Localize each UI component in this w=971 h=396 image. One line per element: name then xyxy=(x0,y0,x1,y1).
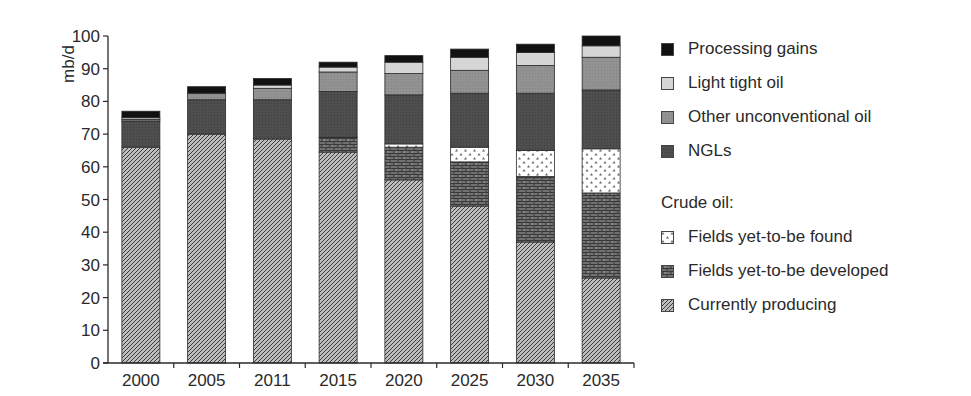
legend-item-processing-gains: Processing gains xyxy=(661,32,961,66)
bar-segment-fields-yet-to-be-developed xyxy=(451,162,489,206)
y-tick-label: 10 xyxy=(81,321,100,340)
bar-segment-currently-producing xyxy=(582,278,620,363)
legend-swatch-icon xyxy=(661,77,674,90)
bar-segment-processing-gains xyxy=(122,111,160,118)
bar-segment-ngls xyxy=(582,90,620,149)
legend-label: Currently producing xyxy=(688,295,836,315)
bar-segment-processing-gains xyxy=(319,62,357,67)
bar-segment-currently-producing xyxy=(451,206,489,363)
bar-segment-ngls xyxy=(188,100,226,134)
bar-segment-fields-yet-to-be-found xyxy=(516,150,554,176)
bar-segment-currently-producing xyxy=(253,139,291,363)
bar-segment-light-tight-oil xyxy=(582,46,620,57)
y-tick-label: 50 xyxy=(81,191,100,210)
legend-item-currently-producing: Currently producing xyxy=(661,288,961,322)
legend-label: Processing gains xyxy=(688,39,817,59)
bar-2015 xyxy=(319,62,357,363)
bar-segment-other-unconventional-oil xyxy=(385,74,423,95)
bar-2035 xyxy=(582,36,620,363)
legend-item-light-tight-oil: Light tight oil xyxy=(661,66,961,100)
bar-segment-light-tight-oil xyxy=(451,57,489,70)
y-tick-label: 70 xyxy=(81,125,100,144)
legend-group-heading: Crude oil: xyxy=(661,186,961,220)
bar-segment-processing-gains xyxy=(582,36,620,46)
legend-label: NGLs xyxy=(688,141,731,161)
legend: Processing gainsLight tight oilOther unc… xyxy=(661,32,961,322)
bar-segment-light-tight-oil xyxy=(516,52,554,65)
x-axis: 20002005201120152020202520302035 xyxy=(103,363,634,390)
bar-segment-ngls xyxy=(516,93,554,150)
bars-group xyxy=(122,36,620,363)
x-tick-label: 2015 xyxy=(319,371,357,390)
bar-segment-processing-gains xyxy=(516,44,554,52)
bar-2020 xyxy=(385,56,423,363)
legend-swatch-icon xyxy=(661,111,674,124)
bar-segment-ngls xyxy=(385,95,423,144)
bar-segment-ngls xyxy=(122,121,160,147)
bar-segment-other-unconventional-oil xyxy=(451,70,489,93)
legend-label: Fields yet-to-be developed xyxy=(688,261,888,281)
bar-segment-other-unconventional-oil xyxy=(582,57,620,90)
legend-item-fields-yet-to-be-developed: Fields yet-to-be developed xyxy=(661,254,961,288)
bar-segment-currently-producing xyxy=(122,147,160,363)
y-axis-label: mb/d xyxy=(59,45,78,83)
y-tick-label: 0 xyxy=(91,354,100,373)
bar-segment-fields-yet-to-be-developed xyxy=(319,137,357,152)
bar-segment-fields-yet-to-be-found xyxy=(582,149,620,193)
bar-segment-processing-gains xyxy=(385,56,423,63)
x-tick-label: 2025 xyxy=(451,371,489,390)
bar-segment-light-tight-oil xyxy=(319,67,357,72)
legend-swatch-icon xyxy=(661,43,674,56)
legend-label: Fields yet-to-be found xyxy=(688,227,852,247)
bar-segment-fields-yet-to-be-developed xyxy=(385,147,423,180)
bar-segment-ngls xyxy=(253,100,291,139)
bar-segment-ngls xyxy=(451,93,489,147)
x-tick-label: 2020 xyxy=(385,371,423,390)
bar-segment-processing-gains xyxy=(253,79,291,86)
bar-segment-fields-yet-to-be-found xyxy=(385,144,423,147)
x-tick-label: 2030 xyxy=(516,371,554,390)
legend-item-ngls: NGLs xyxy=(661,134,961,168)
y-tick-label: 90 xyxy=(81,60,100,79)
bar-segment-ngls xyxy=(319,92,357,138)
bar-2030 xyxy=(516,44,554,363)
legend-swatch-icon xyxy=(661,299,674,312)
y-tick-label: 60 xyxy=(81,158,100,177)
bar-segment-light-tight-oil xyxy=(253,85,291,88)
bar-segment-fields-yet-to-be-developed xyxy=(582,193,620,278)
legend-swatch-icon xyxy=(661,231,674,244)
x-tick-label: 2035 xyxy=(582,371,620,390)
legend-main-items: Processing gainsLight tight oilOther unc… xyxy=(661,32,961,168)
stacked-bar-chart: mb/d 0102030405060708090100 200020052011… xyxy=(0,0,650,396)
y-tick-label: 20 xyxy=(81,289,100,308)
y-tick-label: 40 xyxy=(81,223,100,242)
bar-segment-processing-gains xyxy=(451,49,489,57)
bar-segment-other-unconventional-oil xyxy=(516,65,554,93)
bar-segment-processing-gains xyxy=(188,87,226,94)
bar-2005 xyxy=(188,87,226,363)
x-tick-label: 2005 xyxy=(188,371,226,390)
bar-segment-currently-producing xyxy=(516,242,554,363)
bar-2000 xyxy=(122,111,160,363)
legend-swatch-icon xyxy=(661,145,674,158)
legend-swatch-icon xyxy=(661,265,674,278)
bar-segment-other-unconventional-oil xyxy=(253,88,291,99)
bar-2025 xyxy=(451,49,489,363)
legend-crude-oil-items: Fields yet-to-be foundFields yet-to-be d… xyxy=(661,220,961,322)
bar-segment-currently-producing xyxy=(385,180,423,363)
legend-item-other-unconventional-oil: Other unconventional oil xyxy=(661,100,961,134)
legend-item-fields-yet-to-be-found: Fields yet-to-be found xyxy=(661,220,961,254)
bar-segment-other-unconventional-oil xyxy=(319,72,357,92)
legend-label: Other unconventional oil xyxy=(688,107,871,127)
bar-2011 xyxy=(253,79,291,363)
bar-segment-other-unconventional-oil xyxy=(188,93,226,100)
y-tick-label: 30 xyxy=(81,256,100,275)
bar-segment-currently-producing xyxy=(188,134,226,363)
bar-segment-currently-producing xyxy=(319,152,357,363)
x-tick-label: 2011 xyxy=(254,371,291,390)
bar-segment-fields-yet-to-be-found xyxy=(451,147,489,162)
legend-label: Light tight oil xyxy=(688,73,783,93)
y-tick-label: 80 xyxy=(81,92,100,111)
bar-segment-light-tight-oil xyxy=(385,62,423,73)
y-tick-label: 100 xyxy=(72,27,100,46)
